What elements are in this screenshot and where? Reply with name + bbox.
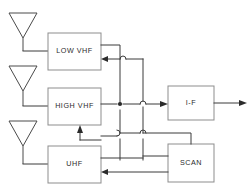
antenna-icon-uhf [9, 121, 37, 164]
block-label-scan: SCAN [180, 158, 202, 167]
block-uhf: UHF [48, 146, 101, 183]
block-if: I-F [168, 86, 214, 120]
block-scan: SCAN [168, 144, 214, 182]
wire-scan-to-low-vhf-hop [120, 56, 126, 59]
block-label-high-vhf: HIGH VHF [55, 101, 94, 110]
block-label-if: I-F [186, 98, 196, 107]
antenna-icon-low-vhf [9, 13, 37, 51]
block-label-low-vhf: LOW VHF [56, 46, 93, 55]
diagram-canvas: LOW VHF HIGH VHF UHF I-F SCAN [0, 0, 251, 195]
wire-low-vhf-output [101, 45, 120, 58]
wire-scan-top-feed [143, 133, 191, 144]
arrowhead-low-vhf-input [101, 56, 108, 62]
block-label-uhf: UHF [66, 159, 82, 168]
block-high-vhf: HIGH VHF [48, 88, 101, 125]
arrowhead-high-vhf-bottom-input [77, 125, 83, 133]
arrowhead-if-output [239, 100, 247, 106]
arrowhead-uhf-input [101, 169, 108, 175]
arrowhead-if-input [160, 101, 168, 107]
antenna-icon-high-vhf [9, 66, 37, 106]
block-diagram: LOW VHF HIGH VHF UHF I-F SCAN [0, 0, 251, 195]
junction-dot-high-vhf-bus [118, 102, 122, 106]
block-low-vhf: LOW VHF [48, 33, 101, 70]
